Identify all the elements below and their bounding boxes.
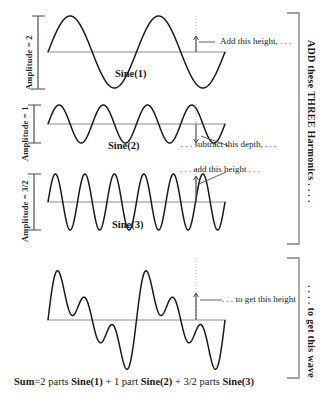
- wave-panel-sum: [47, 271, 226, 369]
- bracket-label-add-harmonics: ADD these THREE Harmonics . . . .: [306, 40, 317, 203]
- annotation-to-get-this-height: . . . to get this height: [222, 294, 296, 304]
- sum-equation-coefficient-1: + 1 part: [103, 376, 141, 387]
- sum-equation-coefficient-0: =2 parts: [34, 376, 71, 387]
- bracket-label-to-get-wave: . . . . to get this wave: [306, 285, 317, 378]
- figure-canvas: [0, 0, 333, 409]
- amplitude-label-sine3: Amplitude = 3/2: [20, 180, 30, 242]
- sum-equation-coefficient-2: + 3/2 parts: [172, 376, 222, 387]
- sum-equation-term-1: Sine(2): [141, 376, 173, 387]
- sum-equation-prefix: Sum: [14, 376, 34, 387]
- wave-name-sine3: Sine(3): [112, 219, 144, 230]
- bracket-top-three-harmonics: [287, 13, 299, 244]
- bracket-bottom-sum-wave: [287, 258, 299, 378]
- sum-equation-term-2: Sine(3): [223, 376, 255, 387]
- annotation-subtract-this-depth: . . . subtract this depth, . . .: [181, 139, 276, 149]
- annotation-add-this-height: Add this height, . . .: [220, 36, 291, 46]
- annotation-add-this-height-3: . . . add this height . . .: [180, 164, 260, 174]
- harmonics-figure: Amplitude = 2Amplitude = 1Amplitude = 3/…: [0, 0, 333, 409]
- sum-equation-term-0: Sine(1): [71, 376, 103, 387]
- wave-name-sine1: Sine(1): [115, 68, 147, 79]
- amplitude-label-sine2: Amplitude = 1: [20, 106, 30, 161]
- amplitude-label-sine1: Amplitude = 2: [24, 35, 34, 90]
- wave-name-sine2: Sine(2): [108, 140, 140, 151]
- sum-equation: Sum=2 parts Sine(1) + 1 part Sine(2) + 3…: [14, 376, 254, 387]
